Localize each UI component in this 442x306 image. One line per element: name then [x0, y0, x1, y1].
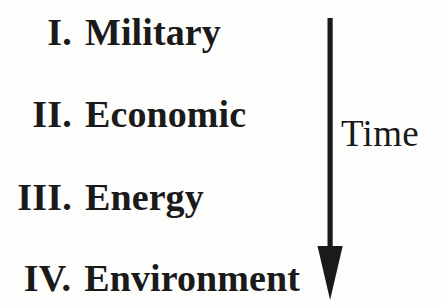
list-item-label: Military: [85, 10, 221, 54]
list-item: III. Energy: [0, 175, 300, 219]
numbered-list: I. Military II. Economic III. Energy IV.…: [0, 0, 300, 306]
list-item: II. Economic: [0, 92, 300, 136]
time-axis: Time: [305, 0, 442, 306]
list-item: I. Military: [0, 10, 300, 54]
list-item-label: Economic: [85, 92, 246, 136]
list-item: IV. Environment: [0, 256, 300, 300]
list-item-numeral: I.: [0, 10, 72, 54]
list-item-numeral: III.: [0, 175, 72, 219]
time-axis-label: Time: [341, 112, 419, 156]
list-item-label: Energy: [85, 175, 204, 219]
list-item-numeral: II.: [0, 92, 72, 136]
list-item-numeral: IV.: [0, 256, 71, 300]
list-item-label: Environment: [84, 256, 300, 300]
figure-canvas: I. Military II. Economic III. Energy IV.…: [0, 0, 442, 306]
